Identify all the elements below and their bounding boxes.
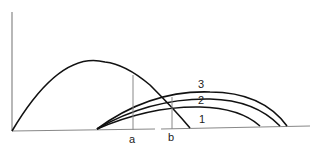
- label-a: a: [129, 133, 136, 145]
- trajectory-curve-2: [97, 99, 280, 129]
- label-curve-3: 3: [198, 78, 204, 90]
- label-curve-2: 2: [198, 94, 204, 106]
- trajectory-diagram: a b 3 2 1: [0, 0, 317, 151]
- tall-trajectory-curve: [12, 60, 190, 131]
- label-b: b: [168, 131, 174, 143]
- trajectory-curve-1: [97, 107, 260, 129]
- label-curve-1: 1: [199, 113, 205, 125]
- x-axis-right: [161, 126, 310, 129]
- x-axis-left: [12, 129, 155, 131]
